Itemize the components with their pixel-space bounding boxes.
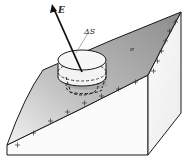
label-area-dS: ΔS <box>83 27 96 36</box>
label-field-E: E <box>57 5 65 15</box>
gauss-pillbox-diagram: E ΔS σ <box>0 0 189 161</box>
pillbox-top-cap <box>58 50 106 70</box>
